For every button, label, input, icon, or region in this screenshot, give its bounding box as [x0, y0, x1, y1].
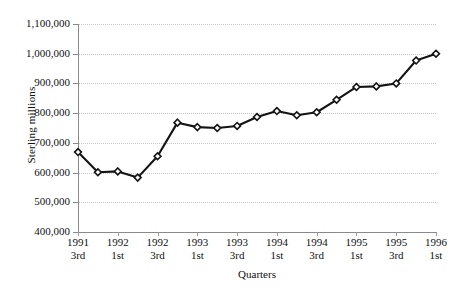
data-point-marker [194, 124, 201, 131]
series-markers [75, 50, 440, 181]
data-point-marker [114, 168, 121, 175]
data-point-marker [214, 125, 221, 132]
data-point-marker [293, 112, 300, 119]
data-point-marker [373, 83, 380, 90]
data-point-marker [273, 108, 280, 115]
data-point-marker [234, 123, 241, 130]
data-point-marker [433, 50, 440, 57]
line-chart: Sterling millions Quarters 1,100,0001,00… [0, 0, 459, 293]
data-series-layer [0, 0, 459, 293]
data-point-marker [254, 114, 261, 121]
